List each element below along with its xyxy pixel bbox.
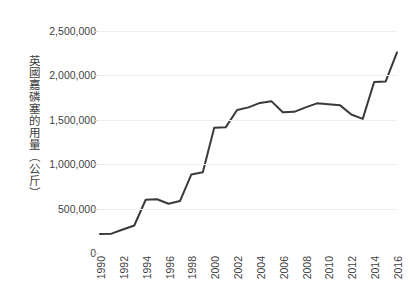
x-axis-tick-label: 2010 <box>323 256 335 279</box>
x-axis-tick-label: 2002 <box>232 256 244 279</box>
y-axis-tick-mark <box>95 253 99 254</box>
y-axis-tick-mark <box>95 75 99 76</box>
x-axis-tick-label: 2014 <box>369 256 381 279</box>
y-axis-tick-mark <box>95 120 99 121</box>
gridline <box>100 164 397 165</box>
x-axis-tick-labels: 1990199219941996199820002002200420062008… <box>100 256 397 305</box>
x-axis-tick-label: 1994 <box>141 256 153 279</box>
y-axis-tick-label: 1,000,000 <box>34 158 96 170</box>
gridline <box>100 120 397 121</box>
gridline <box>100 31 397 32</box>
y-axis-tick-label: 0 <box>34 247 96 259</box>
x-axis-tick-label: 1996 <box>164 256 176 279</box>
x-axis-tick-label: 2000 <box>209 256 221 279</box>
y-axis-tick-label: 1,500,000 <box>34 114 96 126</box>
series-line-path <box>100 52 397 234</box>
x-axis-tick-label: 1990 <box>95 256 107 279</box>
gridline <box>100 75 397 76</box>
y-axis-tick-mark <box>95 209 99 210</box>
gridline <box>100 209 397 210</box>
y-axis-tick-label: 2,000,000 <box>34 69 96 81</box>
y-axis-tick-label: 500,000 <box>34 203 96 215</box>
series-line-chart <box>100 31 397 253</box>
y-axis-tick-mark <box>95 31 99 32</box>
x-axis-tick-label: 2004 <box>255 256 267 279</box>
y-axis-tick-label: 2,500,000 <box>34 25 96 37</box>
x-axis-tick-label: 1998 <box>186 256 198 279</box>
x-axis-tick-label: 2008 <box>301 256 313 279</box>
y-axis-tick-labels: 0500,0001,000,0001,500,0002,000,0002,500… <box>34 0 96 305</box>
chart-page: 英國嘉磷塞的用量（公斤） 0500,0001,000,0001,500,0002… <box>0 0 414 305</box>
x-axis-tick-label: 2012 <box>346 256 358 279</box>
y-axis-tick-mark <box>95 164 99 165</box>
x-axis-tick-label: 2006 <box>278 256 290 279</box>
x-axis-tick-label: 1992 <box>118 256 130 279</box>
plot-area <box>100 31 397 253</box>
x-axis-tick-label: 2016 <box>392 256 404 279</box>
